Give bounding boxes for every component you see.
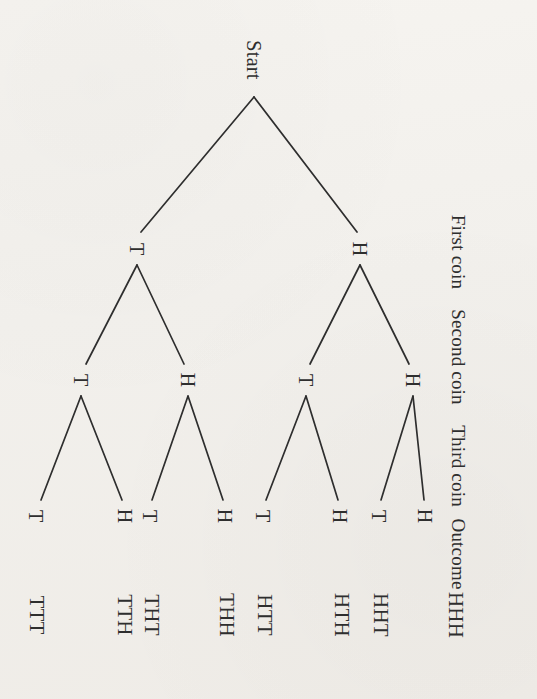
tree-branch (137, 265, 184, 364)
tree-branch (306, 396, 338, 500)
tree-branch (266, 396, 306, 500)
third-coin-node-3: T (140, 510, 160, 522)
tree-branch (254, 97, 357, 232)
second-coin-node-3: T (296, 374, 316, 386)
third-coin-node-5: T (253, 510, 273, 522)
tree-branch (310, 265, 360, 364)
outcome-label-6: HTH (331, 593, 352, 637)
second-coin-node-1: T (71, 374, 91, 386)
tree-branch (81, 396, 122, 500)
first-coin-node-1: T (127, 243, 147, 255)
tree-diagram-page: Start TH THTH THTHTHTH TTTTTHTHTTHHHTTHT… (0, 0, 537, 699)
tree-branch (141, 97, 254, 232)
second-coin-node-2: H (178, 373, 198, 387)
outcome-label-5: HTT (254, 594, 275, 635)
outcome-label-3: THT (141, 594, 162, 635)
stage-second-coin: Second coin (449, 309, 468, 405)
first-coin-node-2: H (350, 242, 370, 256)
root-node-start: Start (244, 40, 264, 79)
tree-branch (152, 396, 188, 500)
second-coin-node-4: H (403, 373, 423, 387)
outcome-label-1: TTT (26, 595, 47, 634)
outcome-label-7: HHT (370, 593, 391, 637)
outcome-label-8: HHH (445, 592, 466, 638)
third-coin-node-8: H (415, 509, 435, 523)
stage-third-coin: Third coin (449, 425, 468, 507)
third-coin-node-2: H (115, 509, 135, 523)
stage-first-coin: First coin (449, 215, 468, 289)
third-coin-node-4: H (215, 509, 235, 523)
stage-outcome: Outcome (449, 518, 468, 589)
outcome-label-4: THH (216, 593, 237, 637)
tree-branch (86, 265, 137, 364)
tree-branch (360, 265, 409, 364)
outcome-label-2: TTH (114, 594, 135, 635)
third-coin-node-7: T (369, 510, 389, 522)
tree-branch (413, 396, 424, 500)
third-coin-node-1: T (26, 510, 46, 522)
third-coin-node-6: H (330, 509, 350, 523)
tree-branch (188, 396, 223, 500)
tree-branch (381, 396, 413, 500)
tree-branch (41, 396, 81, 500)
